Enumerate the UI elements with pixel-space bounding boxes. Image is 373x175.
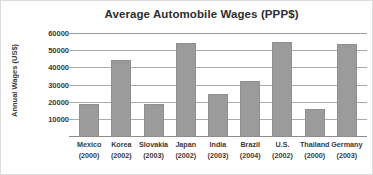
y-tick-label: 30000 <box>29 80 69 89</box>
bar <box>208 94 228 136</box>
bar <box>337 44 357 136</box>
y-tick-label: 60000 <box>29 29 69 38</box>
x-tick-label: Germany(2003) <box>327 140 367 161</box>
y-axis-tick-labels: 100002000030000400005000060000 <box>25 33 69 136</box>
bar <box>305 109 325 136</box>
x-axis-line <box>69 136 367 137</box>
bar <box>272 42 292 136</box>
chart-title: Average Automobile Wages (PPP$) <box>1 8 373 20</box>
bar <box>111 60 131 136</box>
y-tick-label: 50000 <box>29 46 69 55</box>
y-tick-label: 10000 <box>29 114 69 123</box>
x-axis-tick-labels: Mexico(2000)Korea(2002)Slovakia(2003)Jap… <box>73 140 363 170</box>
plot-area <box>73 33 363 136</box>
chart-figure: Average Automobile Wages (PPP$) Annual W… <box>0 0 373 175</box>
x-tick-label-year: (2003) <box>327 151 367 162</box>
bar <box>240 81 260 136</box>
y-axis-title: Annual Wages (US$) <box>7 35 21 125</box>
bar <box>176 43 196 136</box>
y-tick-label: 20000 <box>29 97 69 106</box>
bar <box>79 104 99 136</box>
bars-layer <box>73 33 363 136</box>
y-tick-label: 40000 <box>29 63 69 72</box>
bar <box>144 104 164 136</box>
x-tick-label-name: Germany <box>327 140 367 151</box>
